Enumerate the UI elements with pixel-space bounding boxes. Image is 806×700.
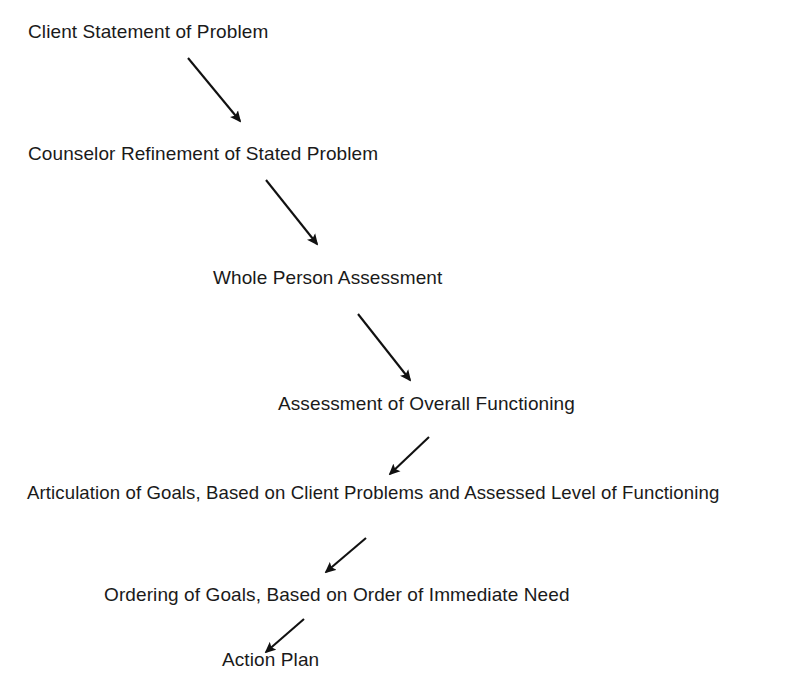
arrow-1 — [188, 58, 240, 121]
arrow-3 — [358, 314, 410, 380]
arrow-2 — [266, 180, 317, 244]
arrow-4 — [390, 437, 429, 474]
node-action-plan: Action Plan — [222, 650, 319, 671]
node-whole-person-assessment: Whole Person Assessment — [213, 268, 442, 289]
arrow-6 — [266, 619, 304, 652]
node-client-statement: Client Statement of Problem — [28, 22, 268, 43]
flowchart-canvas: Client Statement of Problem Counselor Re… — [0, 0, 806, 700]
arrow-5 — [326, 538, 366, 572]
node-articulation-of-goals: Articulation of Goals, Based on Client P… — [27, 483, 719, 503]
node-overall-functioning: Assessment of Overall Functioning — [278, 394, 575, 415]
node-counselor-refinement: Counselor Refinement of Stated Problem — [28, 144, 378, 165]
node-ordering-of-goals: Ordering of Goals, Based on Order of Imm… — [104, 585, 570, 606]
